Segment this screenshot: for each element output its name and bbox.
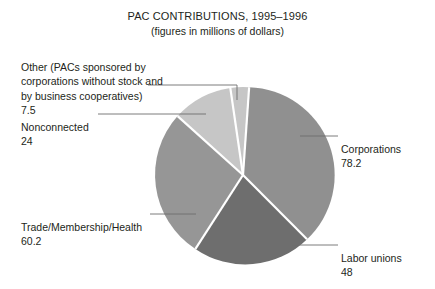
callout-labor-label: Labor unions bbox=[341, 252, 402, 264]
callout-trade-label: Trade/Membership/Health bbox=[21, 221, 142, 233]
callout-nonconnected-value: 24 bbox=[21, 134, 161, 149]
callout-corporations: Corporations 78.2 bbox=[341, 127, 433, 185]
callout-trade-value: 60.2 bbox=[21, 234, 181, 249]
callout-nonconnected-label: Nonconnected bbox=[21, 121, 89, 133]
callout-corporations-label: Corporations bbox=[341, 143, 401, 155]
callout-corporations-value: 78.2 bbox=[341, 156, 433, 171]
callout-labor-value: 48 bbox=[341, 265, 433, 280]
callout-nonconnected: Nonconnected 24 bbox=[21, 105, 161, 163]
callout-trade-membership-health: Trade/Membership/Health 60.2 bbox=[21, 205, 181, 263]
callout-other-label: Other (PACs sponsored by corporations wi… bbox=[21, 61, 163, 102]
callout-labor-unions: Labor unions 48 bbox=[341, 236, 433, 289]
pie-chart-figure: PAC CONTRIBUTIONS, 1995–1996 (figures in… bbox=[0, 0, 435, 289]
